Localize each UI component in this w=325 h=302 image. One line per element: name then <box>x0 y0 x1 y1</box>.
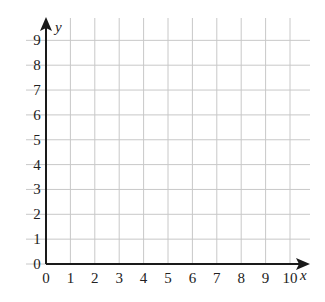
x-tick-label: 10 <box>283 270 298 286</box>
x-tick-label: 4 <box>140 270 148 286</box>
x-tick-label: 2 <box>91 270 99 286</box>
x-tick-label: 9 <box>262 270 270 286</box>
x-axis-label: x <box>299 267 307 283</box>
x-tick-labels: 012345678910 <box>42 270 297 286</box>
y-tick-label: 1 <box>33 231 41 247</box>
x-tick-label: 1 <box>67 270 75 286</box>
x-tick-label: 0 <box>42 270 50 286</box>
x-tick-label: 3 <box>115 270 123 286</box>
y-tick-label: 6 <box>33 107 41 123</box>
x-tick-label: 8 <box>237 270 245 286</box>
vertical-grid-lines <box>70 18 290 264</box>
x-tick-label: 6 <box>189 270 197 286</box>
y-tick-label: 8 <box>33 57 41 73</box>
y-tick-labels: 0123456789 <box>33 32 41 272</box>
axes <box>40 17 310 270</box>
coordinate-grid: 0123456789 012345678910 x y <box>0 0 325 302</box>
y-tick-label: 2 <box>33 206 41 222</box>
y-tick-label: 3 <box>33 181 41 197</box>
y-tick-label: 4 <box>33 157 41 173</box>
x-tick-label: 5 <box>164 270 172 286</box>
y-tick-label: 9 <box>33 32 41 48</box>
y-axis-label: y <box>53 19 62 35</box>
y-tick-label: 0 <box>33 256 41 272</box>
y-tick-label: 7 <box>33 82 41 98</box>
x-tick-label: 7 <box>213 270 221 286</box>
y-tick-label: 5 <box>33 132 41 148</box>
